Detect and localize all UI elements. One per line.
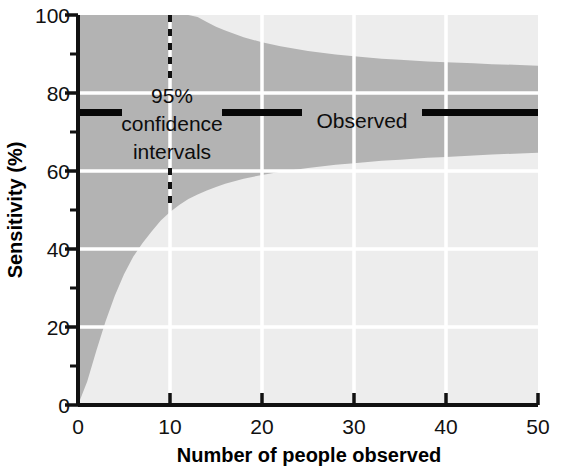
x-axis-title: Number of people observed <box>177 444 442 466</box>
ci-annotation-line-3: intervals <box>133 140 211 163</box>
y-tick-label-20: 20 <box>47 316 70 339</box>
y-axis-title: Sensitivity (%) <box>4 142 26 279</box>
y-tick-label-100: 100 <box>35 4 70 27</box>
x-tick-label-30: 30 <box>342 415 365 438</box>
x-tick-label-0: 0 <box>72 415 84 438</box>
y-axis-tick-labels: 100 80 60 40 20 0 <box>35 4 70 417</box>
ci-annotation-line-2: confidence <box>121 112 223 135</box>
sensitivity-confidence-interval-chart: 100 80 60 40 20 0 0 10 20 30 40 50 Numbe… <box>0 0 563 470</box>
observed-annotation: Observed <box>316 109 407 132</box>
ci-annotation-line-1: 95% <box>151 84 193 107</box>
x-tick-label-40: 40 <box>434 415 457 438</box>
x-axis-tick-labels: 0 10 20 30 40 50 <box>72 415 550 438</box>
y-tick-label-40: 40 <box>47 238 70 261</box>
x-tick-label-10: 10 <box>158 415 181 438</box>
y-tick-label-80: 80 <box>47 82 70 105</box>
y-tick-label-60: 60 <box>47 160 70 183</box>
y-tick-label-0: 0 <box>58 394 70 417</box>
x-tick-label-50: 50 <box>526 415 549 438</box>
figure-container: 100 80 60 40 20 0 0 10 20 30 40 50 Numbe… <box>0 0 563 470</box>
x-tick-label-20: 20 <box>250 415 273 438</box>
